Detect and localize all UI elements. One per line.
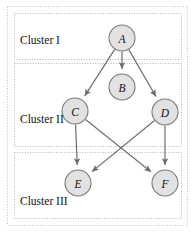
edge-c-e — [76, 124, 78, 165]
node-A[interactable]: A — [109, 25, 135, 51]
cluster-label-cluster-1: Cluster I — [20, 34, 60, 46]
node-D[interactable]: D — [152, 99, 178, 125]
edge-c-f — [86, 119, 151, 171]
cluster-label-cluster-2: Cluster II — [20, 113, 64, 125]
node-E[interactable]: E — [65, 170, 91, 196]
node-label-D: D — [160, 107, 170, 119]
cluster-graph-figure: ABCDEF Cluster ICluster IICluster III — [0, 0, 194, 232]
node-C[interactable]: C — [62, 98, 88, 124]
node-B[interactable]: B — [109, 74, 135, 100]
node-label-B: B — [118, 82, 125, 94]
node-label-F: F — [160, 178, 169, 190]
node-label-C: C — [71, 106, 79, 118]
nodes: ABCDEF — [62, 25, 178, 196]
node-label-A: A — [117, 33, 126, 45]
graph-canvas: ABCDEF Cluster ICluster IICluster III — [0, 0, 194, 232]
node-F[interactable]: F — [152, 170, 178, 196]
cluster-label-cluster-3: Cluster III — [20, 195, 68, 207]
node-label-E: E — [73, 178, 81, 190]
